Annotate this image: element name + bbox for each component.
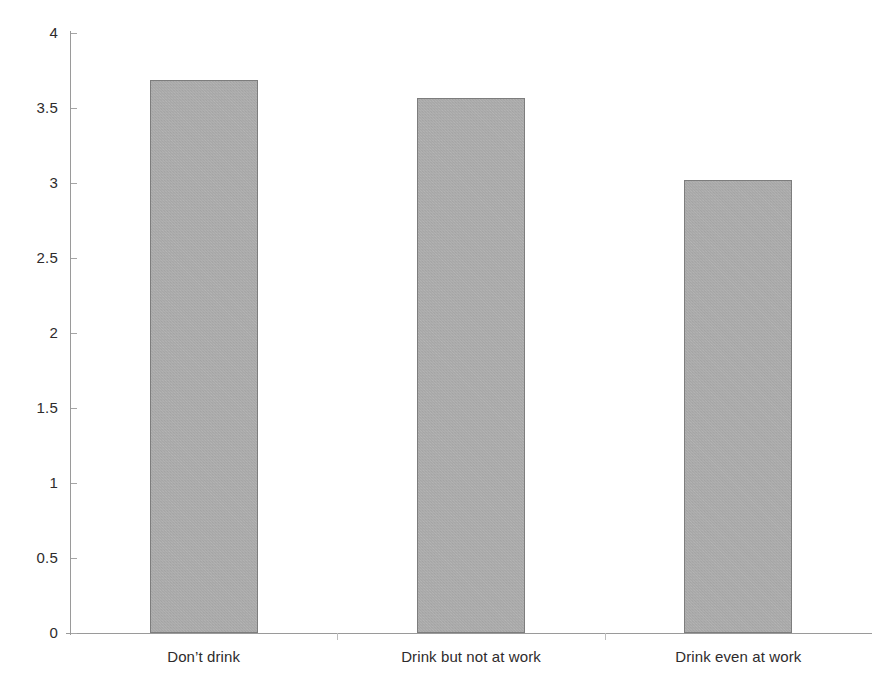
x-axis-label: Drink even at work [598, 648, 878, 666]
x-axis-label: Don’t drink [64, 648, 344, 666]
y-axis-tick-label: 4 [0, 25, 58, 40]
x-axis-line [66, 633, 872, 634]
y-axis-tick-label: 3 [0, 175, 58, 190]
y-axis-tick-label: 1.5 [0, 400, 58, 415]
x-axis-divider-tick [605, 633, 606, 640]
bar-chart: 00.511.522.533.54 Don’t drinkDrink but n… [0, 0, 880, 695]
y-axis-tick [71, 633, 77, 634]
y-axis-tick-label: 0.5 [0, 550, 58, 565]
y-axis-tick-label: 2 [0, 325, 58, 340]
bar [684, 180, 792, 633]
y-axis-tick-label: 2.5 [0, 250, 58, 265]
bar [417, 98, 525, 634]
bar [150, 80, 258, 634]
y-axis-tick-label: 0 [0, 625, 58, 640]
x-axis-label: Drink but not at work [331, 648, 611, 666]
y-axis-tick-label: 1 [0, 475, 58, 490]
bars-container [70, 33, 872, 633]
x-axis-divider-tick [337, 633, 338, 640]
y-axis-tick-label: 3.5 [0, 100, 58, 115]
